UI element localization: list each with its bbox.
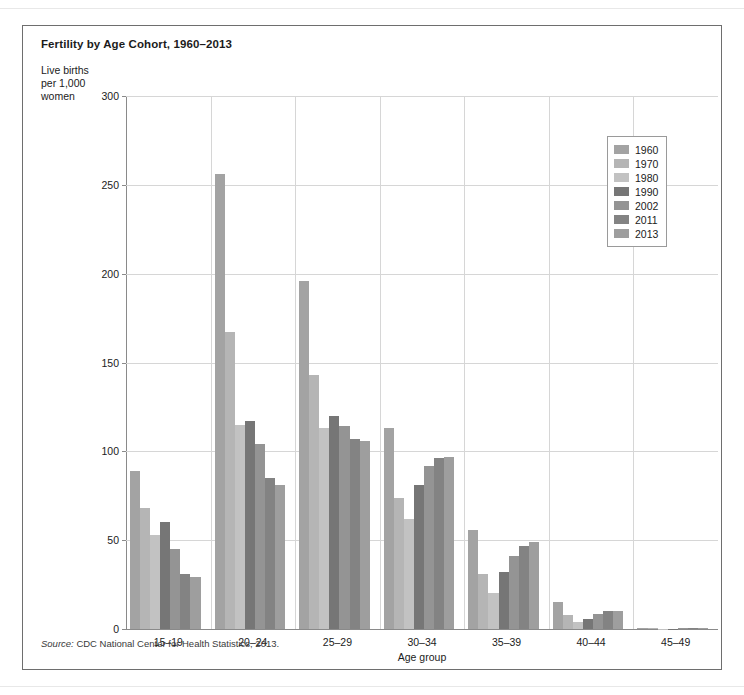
bar bbox=[637, 628, 647, 629]
bar bbox=[225, 332, 235, 629]
bar bbox=[593, 614, 603, 629]
bar bbox=[553, 602, 563, 629]
legend-label: 2013 bbox=[635, 228, 658, 240]
bar bbox=[678, 628, 688, 629]
legend-label: 1960 bbox=[635, 144, 658, 156]
legend-item: 2011 bbox=[614, 213, 658, 226]
legend-item: 1980 bbox=[614, 171, 658, 184]
page-rule-top bbox=[0, 8, 744, 9]
bar bbox=[299, 281, 309, 629]
bar bbox=[235, 425, 245, 629]
bar bbox=[434, 458, 444, 629]
bar bbox=[499, 572, 509, 629]
bar bbox=[384, 428, 394, 629]
bar bbox=[404, 519, 414, 629]
bar bbox=[648, 628, 658, 629]
figure-frame: Fertility by Age Cohort, 1960–2013 Live … bbox=[22, 25, 722, 670]
legend-label: 1990 bbox=[635, 186, 658, 198]
bar-group: 15–19 bbox=[126, 96, 211, 629]
legend-swatch bbox=[614, 173, 629, 182]
bar bbox=[468, 530, 478, 629]
bar bbox=[519, 546, 529, 630]
bar-group-bars bbox=[464, 96, 549, 629]
legend-item: 2002 bbox=[614, 199, 658, 212]
bar bbox=[339, 426, 349, 629]
legend-label: 2011 bbox=[635, 214, 658, 226]
bar-group-bars bbox=[126, 96, 211, 629]
bar bbox=[150, 535, 160, 629]
bar-group: 30–34 bbox=[380, 96, 465, 629]
legend-item: 1970 bbox=[614, 157, 658, 170]
legend-swatch bbox=[614, 159, 629, 168]
bar bbox=[613, 611, 623, 629]
x-tick-label: 30–34 bbox=[380, 636, 465, 648]
legend-swatch bbox=[614, 229, 629, 238]
bar bbox=[245, 421, 255, 629]
bar bbox=[180, 574, 190, 629]
bar bbox=[509, 556, 519, 629]
bar-group: 35–39 bbox=[464, 96, 549, 629]
y-tick-label: 150 bbox=[101, 357, 119, 369]
legend-label: 2002 bbox=[635, 200, 658, 212]
bar bbox=[140, 508, 150, 629]
y-tick-label: 50 bbox=[107, 534, 119, 546]
bar-group-bars bbox=[211, 96, 296, 629]
bar bbox=[265, 478, 275, 629]
x-tick-label: 25–29 bbox=[295, 636, 380, 648]
y-tick-label: 0 bbox=[113, 623, 119, 635]
legend-item: 2013 bbox=[614, 227, 658, 240]
chart-page: Fertility by Age Cohort, 1960–2013 Live … bbox=[0, 0, 744, 695]
bar bbox=[583, 619, 593, 629]
bar bbox=[319, 428, 329, 629]
bar bbox=[563, 615, 573, 629]
bar bbox=[160, 522, 170, 629]
legend-label: 1980 bbox=[635, 172, 658, 184]
bar bbox=[424, 466, 434, 629]
bar bbox=[170, 549, 180, 629]
y-axis-title: Live births per 1,000 women bbox=[41, 64, 99, 104]
x-tick-label: 40–44 bbox=[549, 636, 634, 648]
bar bbox=[414, 485, 424, 629]
bar-group: 20–24 bbox=[211, 96, 296, 629]
bar bbox=[130, 471, 140, 629]
bar bbox=[488, 593, 498, 629]
x-tick-label: 45–49 bbox=[633, 636, 718, 648]
legend-swatch bbox=[614, 215, 629, 224]
x-axis-title: Age group bbox=[126, 651, 718, 663]
bar bbox=[329, 416, 339, 629]
legend-swatch bbox=[614, 187, 629, 196]
bar-group: 25–29 bbox=[295, 96, 380, 629]
bar bbox=[698, 628, 708, 629]
bar-group-bars bbox=[380, 96, 465, 629]
x-axis-line bbox=[126, 629, 718, 630]
legend-swatch bbox=[614, 201, 629, 210]
bar bbox=[350, 439, 360, 629]
bar bbox=[360, 441, 370, 629]
bar bbox=[603, 611, 613, 629]
bar bbox=[309, 375, 319, 629]
legend-label: 1970 bbox=[635, 158, 658, 170]
bar bbox=[255, 444, 265, 629]
bar bbox=[478, 574, 488, 629]
legend-item: 1960 bbox=[614, 143, 658, 156]
legend: 1960197019801990200220112013 bbox=[607, 136, 667, 247]
bar bbox=[275, 485, 285, 629]
y-tick-label: 300 bbox=[101, 90, 119, 102]
y-tick-label: 200 bbox=[101, 268, 119, 280]
page-rule-bottom bbox=[0, 686, 744, 687]
bar bbox=[529, 542, 539, 629]
y-tick-mark bbox=[122, 629, 126, 630]
legend-item: 1990 bbox=[614, 185, 658, 198]
bar bbox=[688, 628, 698, 629]
bar bbox=[190, 577, 200, 629]
bar-group-bars bbox=[295, 96, 380, 629]
bar bbox=[394, 498, 404, 629]
source-note: Source: CDC National Center for Health S… bbox=[41, 638, 279, 649]
bar bbox=[573, 622, 583, 629]
y-tick-label: 100 bbox=[101, 445, 119, 457]
source-label: Source: bbox=[41, 638, 74, 649]
source-value: CDC National Center for Health Statistic… bbox=[76, 638, 279, 649]
bar bbox=[215, 174, 225, 629]
page-title: Fertility by Age Cohort, 1960–2013 bbox=[41, 38, 232, 50]
legend-swatch bbox=[614, 145, 629, 154]
